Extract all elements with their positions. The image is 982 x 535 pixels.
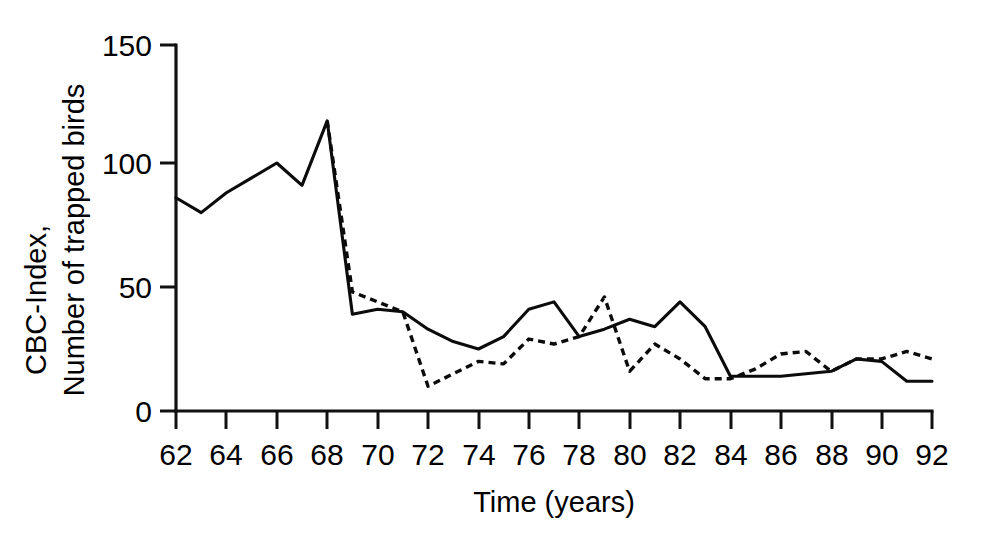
y-axis-title-line1: CBC-Index, [20,225,52,375]
x-tick-label-70: 70 [361,438,394,471]
x-tick-label-66: 66 [260,438,293,471]
x-axis-group: 62 64 66 68 70 72 74 76 78 80 82 84 86 8… [159,411,948,471]
x-axis-title: Time (years) [473,486,635,518]
y-tick-label-0: 0 [135,395,152,428]
x-tick-label-62: 62 [159,438,192,471]
chart-figure: 150 100 50 0 62 64 66 68 [0,0,982,535]
x-tick-label-72: 72 [411,438,444,471]
x-tick-label-80: 80 [613,438,646,471]
x-tick-label-74: 74 [462,438,495,471]
y-tick-label-50: 50 [119,271,152,304]
x-tick-label-64: 64 [209,438,242,471]
x-tick-label-84: 84 [714,438,747,471]
y-axis-title-line2: Number of trapped birds [58,84,90,397]
y-tick-label-150: 150 [102,29,152,62]
line-chart: 150 100 50 0 62 64 66 68 [0,0,982,535]
x-tick-label-88: 88 [815,438,848,471]
y-tick-label-100: 100 [102,147,152,180]
x-tick-label-82: 82 [663,438,696,471]
y-axis-group: 150 100 50 0 [102,29,176,428]
x-tick-label-90: 90 [865,438,898,471]
x-tick-label-92: 92 [915,438,948,471]
x-tick-label-86: 86 [764,438,797,471]
series-line-trapped-birds [327,121,932,386]
x-tick-label-68: 68 [310,438,343,471]
series-group [176,121,932,386]
x-tick-label-78: 78 [562,438,595,471]
x-tick-label-76: 76 [512,438,545,471]
series-line-cbc-index [176,121,932,381]
